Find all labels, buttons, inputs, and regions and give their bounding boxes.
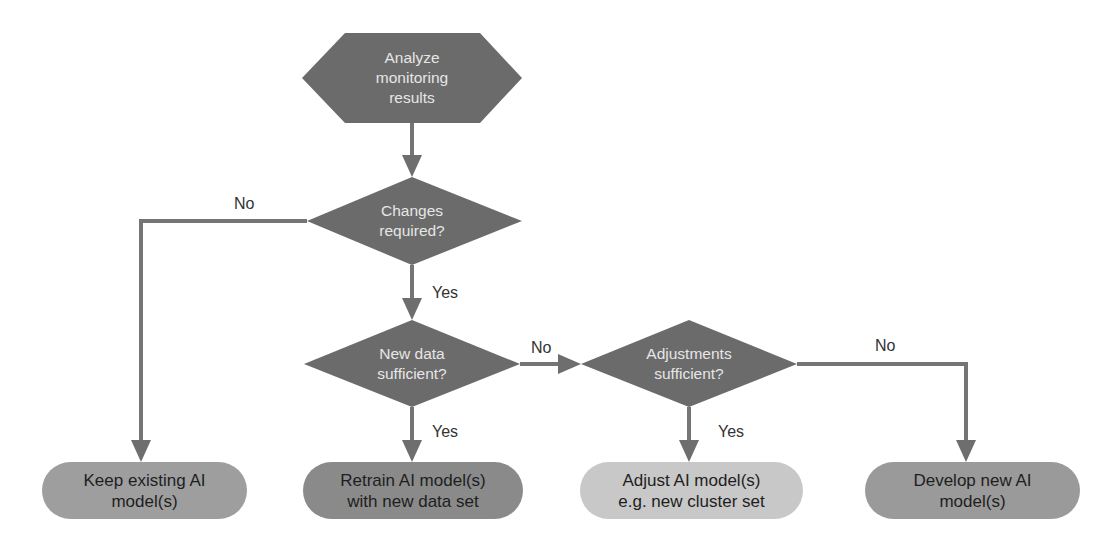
changes-label-line: required? bbox=[379, 221, 445, 241]
develop-label-line: Develop new AI bbox=[913, 470, 1031, 491]
start-label-line: results bbox=[389, 88, 435, 108]
keep-label-line: model(s) bbox=[111, 491, 177, 512]
adjust-label-line: Adjust AI model(s) bbox=[623, 470, 761, 491]
edge-label-adjustments-no: No bbox=[875, 337, 895, 355]
adjust-label-line: e.g. new cluster set bbox=[618, 491, 764, 512]
arrowhead-icon bbox=[402, 440, 422, 462]
start-label: Analyze monitoring results bbox=[330, 33, 494, 123]
edge-adjustments-develop bbox=[797, 364, 966, 440]
changes-label: Changes required? bbox=[342, 196, 482, 246]
arrowhead-icon bbox=[956, 440, 976, 462]
connectors bbox=[141, 123, 966, 440]
new-data-label-line: New data bbox=[379, 344, 444, 364]
adjustments-label-line: Adjustments bbox=[646, 344, 731, 364]
arrowhead-icon bbox=[402, 155, 422, 177]
new-data-label-line: sufficient? bbox=[377, 364, 447, 384]
edge-label-newdata-no: No bbox=[531, 339, 551, 357]
adjust-label: Adjust AI model(s) e.g. new cluster set bbox=[580, 462, 803, 519]
retrain-label-line: with new data set bbox=[347, 491, 478, 512]
arrowhead-icon bbox=[558, 354, 581, 374]
edge-label-changes-yes: Yes bbox=[432, 284, 458, 302]
edge-changes-keep bbox=[141, 221, 307, 440]
develop-label: Develop new AI model(s) bbox=[865, 462, 1080, 519]
arrowhead-icon bbox=[131, 440, 151, 462]
arrowhead-icon bbox=[402, 298, 422, 320]
retrain-label: Retrain AI model(s) with new data set bbox=[303, 462, 523, 519]
start-label-line: Analyze bbox=[384, 48, 439, 68]
develop-label-line: model(s) bbox=[939, 491, 1005, 512]
keep-label-line: Keep existing AI bbox=[84, 470, 206, 491]
edge-label-changes-no: No bbox=[234, 195, 254, 213]
start-label-line: monitoring bbox=[376, 68, 448, 88]
adjustments-label: Adjustments sufficient? bbox=[619, 339, 759, 389]
adjustments-label-line: sufficient? bbox=[654, 364, 724, 384]
edge-label-adjustments-yes: Yes bbox=[718, 423, 744, 441]
new-data-label: New data sufficient? bbox=[342, 339, 482, 389]
arrowheads bbox=[131, 155, 976, 462]
changes-label-line: Changes bbox=[381, 201, 443, 221]
retrain-label-line: Retrain AI model(s) bbox=[340, 470, 486, 491]
edge-label-newdata-yes: Yes bbox=[432, 423, 458, 441]
keep-label: Keep existing AI model(s) bbox=[42, 462, 247, 519]
arrowhead-icon bbox=[679, 440, 699, 462]
